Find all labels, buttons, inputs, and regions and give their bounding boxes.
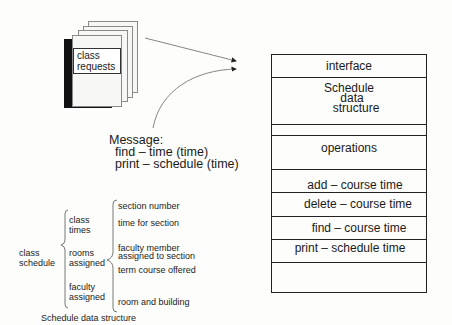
module-row-find: find – course time [272,217,426,240]
schedule-module: interface Schedule data structure operat… [271,54,427,293]
tree-root: class schedule [19,248,55,268]
tree-field: term course offered [118,265,196,275]
tree-field: time for section [118,218,179,228]
tree-field: assigned to section [118,251,195,261]
message-line: print – schedule (time) [109,158,239,170]
message-block: Message: find – time (time) print – sche… [109,134,239,170]
tree-field: section number [118,201,180,211]
tree-field: room and building [118,297,190,307]
tree-group-rooms-assigned: rooms assigned [69,248,105,268]
arrow-from-documents [145,38,236,61]
module-row-operations: operations [272,136,426,170]
module-row-empty [272,263,426,292]
module-row-data-structure: Schedule data structure [272,78,426,125]
tree-caption: Schedule data structure [41,313,136,323]
doc-label: class requests [73,48,121,74]
module-row-print: print – schedule time [272,240,426,263]
module-row-interface: interface [272,55,426,78]
brace-root [61,210,68,308]
module-row-add: add – course time [272,170,426,193]
tree-group-faculty-assigned: faculty assigned [69,282,105,302]
tree-group-class-times: class times [69,215,91,235]
module-row-delete: delete – course time [272,193,426,217]
module-row-spacer [272,125,426,136]
arrow-from-message [153,69,236,128]
brace-fields [107,200,117,312]
